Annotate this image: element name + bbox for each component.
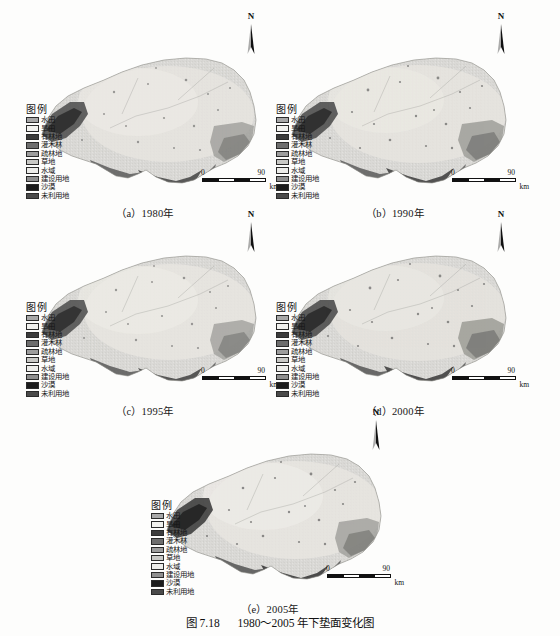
legend-swatch [151, 538, 164, 544]
legend-swatch [276, 184, 289, 190]
legend-rows: 水田旱田有林地灌木林疏林地草地水域建设用地沙漠未利用地 [26, 116, 69, 200]
legend-swatch [276, 323, 289, 329]
legend-swatch [26, 125, 39, 131]
legend-item-label: 水田 [166, 512, 180, 520]
scale-bar-numbers: 0 90 [327, 564, 391, 574]
north-arrow-label: N [373, 408, 380, 417]
north-arrow: N [365, 410, 387, 456]
map-panel-2005: N 0 90 km 图例 水田旱田有林地灌木林疏林地草地水域建设用地沙漠未利用 [143, 418, 397, 598]
north-arrow-label: N [498, 210, 505, 219]
legend-swatch [151, 580, 164, 586]
legend-item-label: 未利用地 [41, 192, 69, 200]
legend-swatch [26, 117, 39, 123]
legend-swatch [276, 193, 289, 199]
scale-bar-min: 0 [201, 366, 205, 376]
map-panel-1990: N 0 90 km 图例 水田旱田有林地灌木林疏林地草地水域建设用地沙漠未利用 [268, 22, 522, 202]
legend-swatch [276, 349, 289, 355]
legend-title: 图例 [276, 302, 319, 313]
legend-item: 未利用地 [26, 390, 69, 398]
legend-swatch [26, 167, 39, 173]
north-arrow-label: N [498, 12, 505, 21]
scale-bar: 0 90 km [452, 168, 516, 182]
legend-swatch [26, 134, 39, 140]
scale-bar-unit: km [394, 578, 404, 587]
map-panel-2000: N 0 90 km 图例 水田旱田有林地灌木林疏林地草地水域建设用地沙漠未利用 [268, 220, 522, 400]
scale-bar-track [202, 376, 266, 380]
north-arrow-glyph [490, 24, 512, 58]
panel-caption: （a）1980年 [18, 205, 272, 220]
legend-swatch [276, 151, 289, 157]
scale-bar-max: 90 [383, 564, 391, 574]
legend-swatch [26, 142, 39, 148]
legend-item-label: 草地 [41, 158, 55, 166]
legend-swatch [151, 521, 164, 527]
legend-swatch [26, 357, 39, 363]
legend-rows: 水田旱田有林地灌木林疏林地草地水域建设用地沙漠未利用地 [276, 314, 319, 398]
legend-item-label: 未利用地 [291, 390, 319, 398]
figure-page: N 0 90 km 图例 水田旱田有林地灌木林疏林 [0, 0, 560, 636]
legend-swatch [26, 323, 39, 329]
legend-swatch [276, 315, 289, 321]
scale-bar-min: 0 [451, 168, 455, 178]
legend-swatch [276, 357, 289, 363]
legend-swatch [26, 391, 39, 397]
map-legend: 图例 水田旱田有林地灌木林疏林地草地水域建设用地沙漠未利用地 [276, 104, 319, 200]
legend-item: 未利用地 [276, 192, 319, 200]
north-arrow: N [240, 14, 262, 60]
scale-bar: 0 90 km [202, 366, 266, 380]
legend-swatch [26, 184, 39, 190]
legend-swatch [26, 340, 39, 346]
map-panel-1980: N 0 90 km 图例 水田旱田有林地灌木林疏林 [18, 22, 272, 202]
legend-title: 图例 [26, 302, 69, 313]
legend-title: 图例 [276, 104, 319, 115]
north-arrow: N [490, 14, 512, 60]
figure-title: 1980～2005 年下垫面变化图 [237, 617, 374, 629]
legend-swatch [26, 176, 39, 182]
legend-item-label: 水田 [291, 116, 305, 124]
figure-grid: N 0 90 km 图例 水田旱田有林地灌木林疏林 [0, 0, 560, 636]
legend-item-label: 草地 [166, 554, 180, 562]
legend-swatch [276, 167, 289, 173]
legend-swatch [276, 117, 289, 123]
map-legend: 图例 水田旱田有林地灌木林疏林地草地水域建设用地沙漠未利用地 [26, 302, 69, 398]
legend-swatch [276, 382, 289, 388]
map-legend: 图例 水田旱田有林地灌木林疏林地草地水域建设用地沙漠未利用地 [26, 104, 69, 200]
legend-item-label: 水田 [41, 116, 55, 124]
legend-swatch [151, 547, 164, 553]
legend-rows: 水田旱田有林地灌木林疏林地草地水域建设用地沙漠未利用地 [151, 512, 194, 596]
legend-swatch [151, 530, 164, 536]
scale-bar-max: 90 [508, 366, 516, 376]
legend-swatch [276, 134, 289, 140]
legend-swatch [26, 151, 39, 157]
legend-item: 未利用地 [151, 588, 194, 596]
legend-swatch [151, 572, 164, 578]
scale-bar-min: 0 [451, 366, 455, 376]
scale-bar-numbers: 0 90 [452, 366, 516, 376]
legend-swatch [276, 142, 289, 148]
legend-swatch [276, 176, 289, 182]
north-arrow: N [490, 212, 512, 258]
scale-bar-min: 0 [201, 168, 205, 178]
scale-bar: 0 90 km [202, 168, 266, 182]
legend-swatch [151, 563, 164, 569]
legend-item-label: 草地 [291, 158, 305, 166]
legend-item-label: 未利用地 [41, 390, 69, 398]
scale-bar-max: 90 [258, 366, 266, 376]
panel-caption: （d）2000年 [268, 403, 522, 418]
scale-bar-max: 90 [258, 168, 266, 178]
legend-swatch [26, 315, 39, 321]
legend-item: 未利用地 [26, 192, 69, 200]
legend-rows: 水田旱田有林地灌木林疏林地草地水域建设用地沙漠未利用地 [26, 314, 69, 398]
legend-swatch [276, 159, 289, 165]
legend-swatch [26, 349, 39, 355]
scale-bar: 0 90 km [452, 366, 516, 380]
legend-swatch [26, 159, 39, 165]
panel-caption: （c）1995年 [18, 403, 272, 418]
legend-swatch [26, 332, 39, 338]
legend-item-label: 草地 [41, 356, 55, 364]
legend-swatch [151, 589, 164, 595]
legend-swatch [276, 340, 289, 346]
scale-bar-numbers: 0 90 [202, 168, 266, 178]
north-arrow-glyph [240, 24, 262, 58]
legend-swatch [26, 365, 39, 371]
